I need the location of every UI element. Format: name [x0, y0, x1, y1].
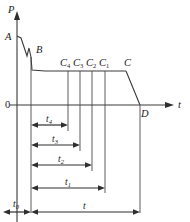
point-label-c2: C2: [86, 57, 96, 69]
dimension-label-t-total: t: [83, 201, 86, 211]
pressure-time-diagram: P t 0 A B C4 C3 C2 C1 C D: [0, 0, 190, 222]
dimension-label-t3: t3: [52, 134, 59, 145]
y-axis: [14, 11, 20, 222]
dimension-label-t2: t2: [58, 154, 65, 165]
y-axis-label: P: [7, 4, 15, 15]
pressure-curve: [17, 36, 126, 71]
decay-line-c-to-d: [126, 71, 140, 213]
point-label-c1: C1: [99, 57, 109, 69]
origin-label: 0: [5, 99, 10, 110]
point-label-b: B: [36, 44, 43, 55]
dimension-label-t1: t1: [65, 177, 71, 188]
dimension-label-t4: t4: [46, 114, 53, 125]
dimension-label-t0: t0: [13, 199, 20, 210]
x-axis-label: t: [178, 99, 182, 110]
y-axis-arrowhead: [14, 11, 20, 20]
point-label-c3: C3: [73, 57, 83, 69]
point-label-d: D: [140, 108, 149, 119]
point-label-c4: C4: [60, 57, 71, 69]
x-axis-arrowhead: [165, 102, 174, 108]
diagram-canvas: P t 0 A B C4 C3 C2 C1 C D: [0, 0, 190, 222]
point-label-c: C: [124, 57, 132, 68]
point-label-a: A: [4, 31, 12, 42]
